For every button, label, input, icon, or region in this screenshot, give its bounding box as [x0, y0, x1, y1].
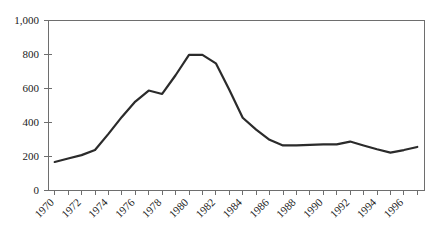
y-tick-label-800: 800	[23, 48, 40, 60]
chart-container: 02004006008001,000 197019721974197619781…	[0, 0, 437, 235]
y-tick-label-200: 200	[23, 150, 40, 162]
y-tick-label-1,000: 1,000	[14, 14, 39, 26]
y-tick-label-600: 600	[23, 82, 40, 94]
y-tick-label-0: 0	[34, 184, 40, 196]
line-chart: 02004006008001,000 197019721974197619781…	[0, 0, 437, 235]
y-tick-label-400: 400	[23, 116, 40, 128]
